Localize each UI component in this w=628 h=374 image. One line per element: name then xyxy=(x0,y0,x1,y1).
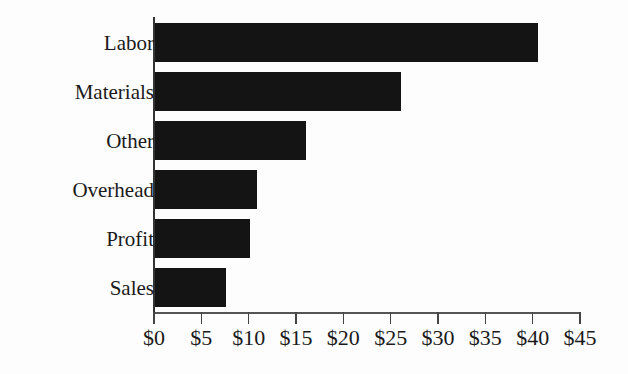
x-tick-label: $15 xyxy=(280,325,313,351)
bar-labor xyxy=(155,23,538,62)
x-tick-mark xyxy=(532,312,534,324)
bar-overhead xyxy=(155,170,257,209)
x-tick-mark xyxy=(248,312,250,324)
x-tick-label: $40 xyxy=(516,325,549,351)
bar-profit xyxy=(155,219,250,258)
x-tick-label: $25 xyxy=(374,325,407,351)
x-tick-mark xyxy=(579,312,581,324)
category-label-labor: Labor xyxy=(104,31,154,55)
category-label-profit: Profit xyxy=(106,227,154,251)
x-tick-label: $0 xyxy=(143,325,165,351)
x-tick-mark xyxy=(201,312,203,324)
category-label-other: Other xyxy=(106,129,154,153)
bar-other xyxy=(155,121,306,160)
x-tick-label: $45 xyxy=(564,325,597,351)
bar-sales xyxy=(155,268,226,307)
x-tick-mark xyxy=(343,312,345,324)
x-axis-line xyxy=(153,312,581,314)
category-label-sales: Sales xyxy=(110,276,154,300)
x-tick-label: $20 xyxy=(327,325,360,351)
x-tick-mark xyxy=(437,312,439,324)
category-label-overhead: Overhead xyxy=(72,178,154,202)
x-tick-mark xyxy=(485,312,487,324)
category-label-materials: Materials xyxy=(75,80,154,104)
bar-materials xyxy=(155,72,401,111)
x-tick-label: $10 xyxy=(232,325,265,351)
x-tick-mark xyxy=(295,312,297,324)
x-tick-label: $30 xyxy=(422,325,455,351)
x-tick-label: $35 xyxy=(469,325,502,351)
horizontal-bar-chart: LaborMaterialsOtherOverheadProfitSales $… xyxy=(0,0,628,374)
x-tick-label: $5 xyxy=(190,325,212,351)
x-tick-mark xyxy=(153,312,155,324)
x-tick-mark xyxy=(390,312,392,324)
